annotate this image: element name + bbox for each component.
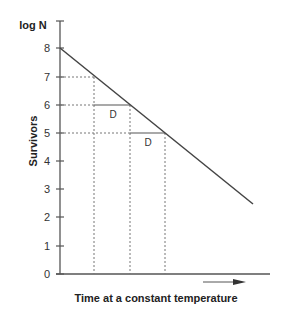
y-tick-label-3: 3 (44, 183, 50, 195)
y-tick-label-0: 0 (44, 268, 50, 280)
y-tick-labels: 0 1 2 3 4 5 6 7 8 (44, 42, 50, 280)
d-label-2: D (144, 137, 151, 148)
y-tick-label-5: 5 (44, 127, 50, 139)
survival-curve (60, 48, 253, 204)
d-label-1: D (109, 109, 116, 120)
y-tick-label-8: 8 (44, 42, 50, 54)
y-axis-header: log N (19, 19, 47, 31)
survivor-curve-chart: 0 1 2 3 4 5 6 7 8 D D log N Survivors Ti… (0, 0, 281, 313)
y-tick-label-7: 7 (44, 71, 50, 83)
y-tick-label-4: 4 (44, 155, 50, 167)
x-axis-title: Time at a constant temperature (74, 292, 237, 304)
vertical-guides (94, 77, 165, 274)
y-tick-label-2: 2 (44, 211, 50, 223)
y-tick-label-6: 6 (44, 99, 50, 111)
time-arrow-icon (203, 279, 246, 285)
y-axis-title: Survivors (27, 116, 39, 167)
y-tick-label-1: 1 (44, 240, 50, 252)
